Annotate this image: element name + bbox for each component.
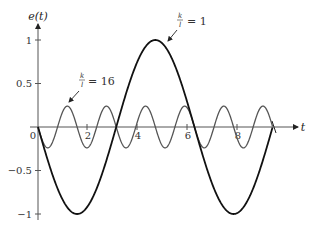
x-tick-label-6: 6 (185, 130, 191, 141)
y-tick-label-neg-1: −1 (17, 209, 32, 220)
y-tick-label-1: 1 (26, 35, 32, 46)
y-axis-title: e(t) (28, 10, 48, 23)
svg-text:k: k (178, 12, 182, 20)
y-tick-label-neg-0.5: −0.5 (8, 165, 32, 176)
x-axis-title: t (301, 121, 306, 134)
svg-text:k: k (80, 72, 84, 80)
svg-text:= 16: = 16 (88, 75, 115, 88)
y-tick-label-0.5: 0.5 (16, 78, 32, 89)
annotation-arrow (168, 30, 177, 41)
svg-text:= 1: = 1 (187, 15, 207, 28)
x-tick-label-2: 2 (85, 130, 91, 141)
annotation-arrow (69, 91, 79, 102)
svg-text:l: l (81, 81, 83, 89)
annotation-k-over-l-16: k l = 16 (69, 72, 115, 102)
svg-text:l: l (179, 21, 181, 29)
x-tick-label-4: 4 (135, 130, 141, 141)
annotation-k-over-l-1: k l = 1 (168, 12, 207, 41)
x-tick-label-0: 0 (30, 130, 36, 141)
chart: 1 0.5 −0.5 −1 0 2 4 6 8 e(t) t k l = 16 … (0, 0, 315, 235)
